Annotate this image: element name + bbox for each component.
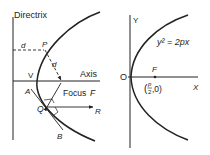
tangent-line xyxy=(31,89,63,130)
left-panel: Directrix d P d V Axis Focus F A Q R B xyxy=(13,10,101,141)
ray-r-label: R xyxy=(95,107,101,116)
vertex-label: V xyxy=(28,71,34,80)
directrix-label: Directrix xyxy=(14,10,47,20)
equation-label: y² = 2px xyxy=(156,37,190,47)
point-q-label: Q xyxy=(37,104,44,114)
focus-label: Focus xyxy=(63,88,86,98)
x-axis-label: X xyxy=(192,83,199,92)
focus-label-right: F xyxy=(152,65,158,74)
coord-rest: ,0) xyxy=(152,84,162,94)
focus-letter-label: F xyxy=(90,88,96,98)
d-diagonal-label: d xyxy=(52,60,57,69)
angle-mark-upper xyxy=(44,99,54,103)
y-axis-label: Y xyxy=(133,16,139,25)
d-horizontal-label: d xyxy=(21,41,26,50)
focus-point xyxy=(154,76,157,79)
axis-label: Axis xyxy=(80,69,98,79)
parabola-diagram: Directrix d P d V Axis Focus F A Q R B Y… xyxy=(0,0,210,155)
point-p-label: P xyxy=(42,40,48,49)
right-panel: Y y² = 2px O F X ( p 2 ,0) xyxy=(120,15,199,148)
angle-mark-lower xyxy=(54,107,58,115)
focus-coordinate-label: ( p 2 ,0) xyxy=(144,81,162,95)
tangent-a-label: A xyxy=(24,87,30,96)
focal-ray xyxy=(47,83,61,107)
origin-label: O xyxy=(120,72,127,82)
tangent-b-label: B xyxy=(57,132,63,141)
